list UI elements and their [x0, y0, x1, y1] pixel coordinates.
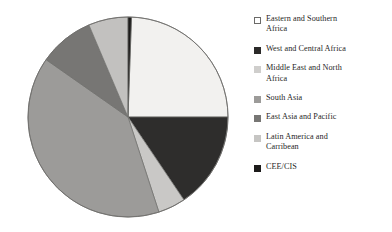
chart-legend: Eastern and Southern AfricaWest and Cent… [254, 14, 392, 181]
legend-item-label: West and Central Africa [266, 44, 346, 54]
legend-swatch-cee-cis [254, 165, 261, 172]
legend-item[interactable]: CEE/CIS [254, 162, 392, 172]
legend-item[interactable]: South Asia [254, 93, 392, 103]
legend-swatch-west-and-central-africa [254, 47, 261, 54]
pie-chart-svg [27, 16, 229, 218]
legend-item[interactable]: West and Central Africa [254, 44, 392, 54]
legend-item[interactable]: Eastern and Southern Africa [254, 14, 392, 35]
legend-item-label: South Asia [266, 93, 302, 103]
legend-swatch-latin-america-and-carribean [254, 135, 261, 142]
legend-item[interactable]: Latin America and Carribean [254, 132, 392, 153]
legend-swatch-south-asia [254, 96, 261, 103]
legend-item-label: Eastern and Southern Africa [266, 14, 337, 35]
legend-item-label: Middle East and North Africa [266, 63, 342, 84]
legend-item-label: Latin America and Carribean [266, 132, 328, 153]
legend-swatch-middle-east-and-north-africa [254, 66, 261, 73]
legend-item-label: East Asia and Pacific [266, 112, 336, 122]
legend-item-label: CEE/CIS [266, 162, 297, 172]
pie-chart-plot-area [27, 16, 229, 218]
pie-slice[interactable] [128, 17, 228, 117]
legend-swatch-eastern-and-southern-africa [254, 17, 261, 24]
legend-item[interactable]: Middle East and North Africa [254, 63, 392, 84]
legend-swatch-east-asia-and-pacific [254, 115, 261, 122]
legend-item[interactable]: East Asia and Pacific [254, 112, 392, 122]
pie-chart-figure: Eastern and Southern AfricaWest and Cent… [0, 0, 392, 232]
